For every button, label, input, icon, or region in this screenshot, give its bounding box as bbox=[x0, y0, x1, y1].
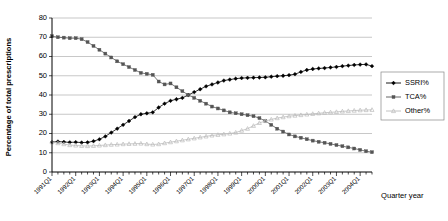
data-point bbox=[370, 64, 374, 68]
y-axis-tick-label: 20 bbox=[39, 128, 47, 137]
chart-legend: SSRI%TCA%Other% bbox=[381, 72, 444, 120]
data-point bbox=[205, 102, 208, 105]
data-point bbox=[392, 96, 395, 99]
data-point bbox=[133, 68, 136, 71]
line-chart: 01020304050607080 1991Q11992Q11993Q11994… bbox=[0, 0, 448, 221]
data-point bbox=[246, 76, 250, 80]
x-axis-tick-label: 1997Q1 bbox=[174, 174, 195, 195]
data-point bbox=[323, 66, 327, 70]
data-point bbox=[329, 66, 333, 70]
data-point bbox=[282, 130, 285, 133]
data-point bbox=[98, 137, 102, 141]
data-point bbox=[192, 90, 196, 94]
data-point bbox=[364, 62, 368, 66]
x-axis-tick-label: 2002Q1 bbox=[293, 174, 314, 195]
data-point bbox=[258, 117, 261, 120]
chart-container: 01020304050607080 1991Q11992Q11993Q11994… bbox=[0, 0, 448, 221]
x-axis-tick-label: 1996Q1 bbox=[151, 174, 172, 195]
data-point bbox=[371, 151, 374, 154]
y-axis-tick-label: 10 bbox=[39, 148, 47, 157]
data-point bbox=[175, 97, 179, 101]
y-axis-title: Percentage of total prescriptions bbox=[4, 38, 13, 157]
x-axis-tick-label: 2001Q1 bbox=[269, 174, 290, 195]
series-line bbox=[52, 36, 372, 152]
data-point bbox=[335, 144, 338, 147]
data-point bbox=[92, 44, 95, 47]
data-point bbox=[252, 76, 256, 80]
legend-item-label: SSRI% bbox=[405, 78, 429, 87]
y-axis-tick-label: 50 bbox=[39, 71, 47, 80]
data-point bbox=[341, 145, 344, 148]
data-point bbox=[222, 109, 225, 112]
data-point bbox=[181, 90, 184, 93]
data-point bbox=[122, 63, 125, 66]
data-point bbox=[269, 75, 273, 79]
y-axis-tick-labels: 01020304050607080 bbox=[39, 13, 52, 176]
data-point bbox=[288, 133, 291, 136]
data-point bbox=[270, 123, 273, 126]
legend-item-label: TCA% bbox=[405, 92, 427, 101]
data-point bbox=[98, 48, 101, 51]
data-point bbox=[234, 112, 237, 115]
y-axis-tick-label: 60 bbox=[39, 51, 47, 60]
data-point bbox=[110, 56, 113, 59]
x-axis-tick-label: 1999Q1 bbox=[222, 174, 243, 195]
data-point bbox=[56, 36, 59, 39]
data-point bbox=[311, 139, 314, 142]
data-point bbox=[163, 83, 166, 86]
data-point bbox=[80, 38, 83, 41]
data-point bbox=[216, 107, 219, 110]
data-point bbox=[340, 64, 344, 68]
data-point bbox=[329, 142, 332, 145]
data-point bbox=[145, 72, 148, 75]
data-point bbox=[246, 114, 249, 117]
data-point bbox=[180, 96, 184, 100]
data-point bbox=[139, 71, 142, 74]
data-point bbox=[169, 99, 173, 103]
data-point bbox=[299, 136, 302, 139]
series-line bbox=[52, 64, 372, 142]
x-axis-tick-labels: 1991Q11992Q11993Q11994Q11995Q11996Q11997… bbox=[32, 174, 361, 195]
data-point bbox=[258, 76, 262, 80]
data-point bbox=[293, 135, 296, 138]
data-point bbox=[86, 41, 89, 44]
data-point bbox=[68, 37, 71, 40]
data-point bbox=[299, 70, 303, 74]
x-axis-tick-label: 1992Q1 bbox=[56, 174, 77, 195]
y-axis-tick-label: 40 bbox=[39, 90, 47, 99]
y-axis-tick-label: 0 bbox=[43, 167, 47, 176]
y-axis-tick-label: 70 bbox=[39, 32, 47, 41]
series-ssri bbox=[50, 62, 374, 144]
data-point bbox=[240, 113, 243, 116]
data-point bbox=[359, 148, 362, 151]
data-point bbox=[198, 87, 202, 91]
data-point bbox=[323, 141, 326, 144]
data-point bbox=[74, 37, 77, 40]
data-point bbox=[210, 83, 214, 87]
data-point bbox=[287, 73, 291, 77]
x-axis-tick-label: 2004Q1 bbox=[340, 174, 361, 195]
data-point bbox=[234, 77, 238, 81]
data-point bbox=[62, 36, 65, 39]
x-axis-title: Quarter year bbox=[381, 191, 424, 200]
data-point bbox=[211, 105, 214, 108]
data-point bbox=[187, 94, 190, 97]
data-point bbox=[305, 68, 309, 72]
data-point bbox=[365, 150, 368, 153]
data-point bbox=[353, 147, 356, 150]
data-point bbox=[347, 146, 350, 149]
data-point bbox=[276, 127, 279, 130]
data-point bbox=[228, 78, 232, 82]
data-point bbox=[175, 86, 178, 89]
data-point bbox=[240, 76, 244, 80]
x-axis-tick-label: 1994Q1 bbox=[103, 174, 124, 195]
x-axis-tick-label: 1993Q1 bbox=[80, 174, 101, 195]
data-point bbox=[317, 140, 320, 143]
x-axis-tick-label: 1998Q1 bbox=[198, 174, 219, 195]
y-axis-tick-label: 30 bbox=[39, 109, 47, 118]
data-point bbox=[204, 84, 208, 88]
data-point bbox=[104, 52, 107, 55]
data-point bbox=[216, 81, 220, 85]
data-point bbox=[139, 112, 143, 116]
data-point bbox=[252, 115, 255, 118]
